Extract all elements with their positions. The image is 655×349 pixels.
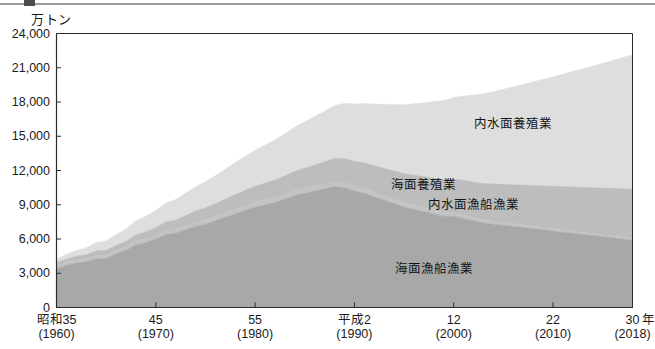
y-tick-label: 12,000	[2, 165, 50, 177]
fisheries-production-chart: 万トン 03,0006,0009,00012,00015,00018,00021…	[0, 0, 655, 349]
y-tick-label: 18,000	[2, 96, 50, 108]
y-tick-label: 3,000	[2, 267, 50, 279]
y-tick-label: 15,000	[2, 130, 50, 142]
y-tick-label: 24,000	[2, 28, 50, 40]
x-tick-year: (1990)	[336, 327, 372, 341]
x-tick-label: 45(1970)	[138, 313, 174, 341]
x-tick-era: 昭和35	[37, 313, 77, 327]
x-tick-era: 12	[436, 313, 472, 327]
y-tick-label: 6,000	[2, 233, 50, 245]
x-tick-label: 22(2010)	[535, 313, 571, 341]
x-tick-label: 昭和35(1960)	[37, 313, 77, 341]
x-tick-year: (2010)	[535, 327, 571, 341]
x-tick-label: 平成2(1990)	[336, 313, 372, 341]
x-tick-year: (1970)	[138, 327, 174, 341]
x-tick-era: 55	[237, 313, 273, 327]
x-tick-label: 12(2000)	[436, 313, 472, 341]
x-tick-year: (1980)	[237, 327, 273, 341]
x-tick-era: 45	[138, 313, 174, 327]
series-label-4: 内水面養殖業	[474, 117, 552, 130]
x-tick-label: 55(1980)	[237, 313, 273, 341]
series-label-2: 内水面漁船漁業	[428, 198, 519, 211]
x-tick-year: (1960)	[37, 327, 77, 341]
series-label-3: 海面養殖業	[391, 179, 456, 192]
y-tick-label: 9,000	[2, 199, 50, 211]
x-tick-year: (2018)	[614, 327, 650, 341]
y-tick-label: 21,000	[2, 62, 50, 74]
y-tick-label: 0	[2, 302, 50, 314]
x-tick-era: 22	[535, 313, 571, 327]
x-tick-era: 平成2	[336, 313, 372, 327]
x-axis-unit-label: 年	[642, 313, 655, 327]
stacked-area-plot	[0, 0, 655, 349]
x-tick-year: (2000)	[436, 327, 472, 341]
series-label-1: 海面漁船漁業	[395, 262, 473, 275]
